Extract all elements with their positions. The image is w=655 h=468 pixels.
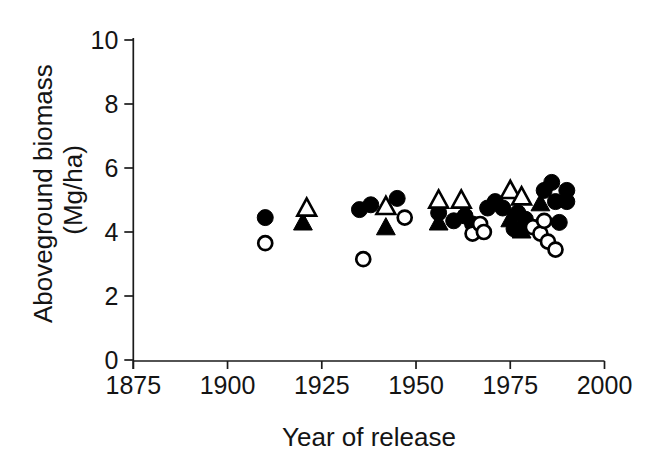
- filled-circle-marker: [389, 190, 405, 206]
- filled-circle-marker: [551, 214, 567, 230]
- open-circle-marker: [537, 214, 551, 228]
- y-tick-label: 0: [104, 346, 118, 374]
- y-axis-title-text: Aboveground biomass (Mg/ha): [28, 57, 88, 323]
- filled-circle-marker: [559, 194, 575, 210]
- open-circle-marker: [398, 211, 412, 225]
- x-tick-label: 2000: [577, 371, 633, 399]
- open-triangle-marker: [429, 190, 448, 207]
- y-axis-title: Aboveground biomass (Mg/ha): [28, 57, 88, 323]
- scatter-plot-figure: 0246810187519001925195019752000 Abovegro…: [0, 0, 655, 468]
- x-tick-label: 1975: [482, 371, 538, 399]
- open-circle-marker: [548, 243, 562, 257]
- y-tick-label: 10: [90, 26, 118, 54]
- open-triangle-marker: [452, 190, 471, 207]
- x-tick-label: 1875: [105, 371, 161, 399]
- filled-circle-marker: [544, 174, 560, 190]
- y-tick-label: 8: [104, 90, 118, 118]
- plot-area: 0246810187519001925195019752000: [90, 26, 632, 399]
- y-axis-title-line2: (Mg/ha): [58, 145, 88, 235]
- x-tick-label: 1925: [294, 371, 350, 399]
- open-triangle-marker: [297, 198, 316, 215]
- x-axis-title: Year of release: [282, 422, 456, 452]
- chart-canvas: 0246810187519001925195019752000 Abovegro…: [0, 0, 655, 468]
- x-tick-label: 1900: [200, 371, 256, 399]
- y-tick-label: 2: [104, 282, 118, 310]
- open-circle-marker: [258, 236, 272, 250]
- filled-circle-marker: [257, 210, 273, 226]
- y-tick-label: 6: [104, 154, 118, 182]
- filled-triangle-marker: [376, 218, 395, 235]
- y-tick-label: 4: [104, 218, 118, 246]
- open-circle-marker: [356, 252, 370, 266]
- open-circle-marker: [477, 225, 491, 239]
- y-axis-title-line1: Aboveground biomass: [28, 64, 58, 323]
- x-tick-label: 1950: [388, 371, 444, 399]
- filled-circle-marker: [363, 197, 379, 213]
